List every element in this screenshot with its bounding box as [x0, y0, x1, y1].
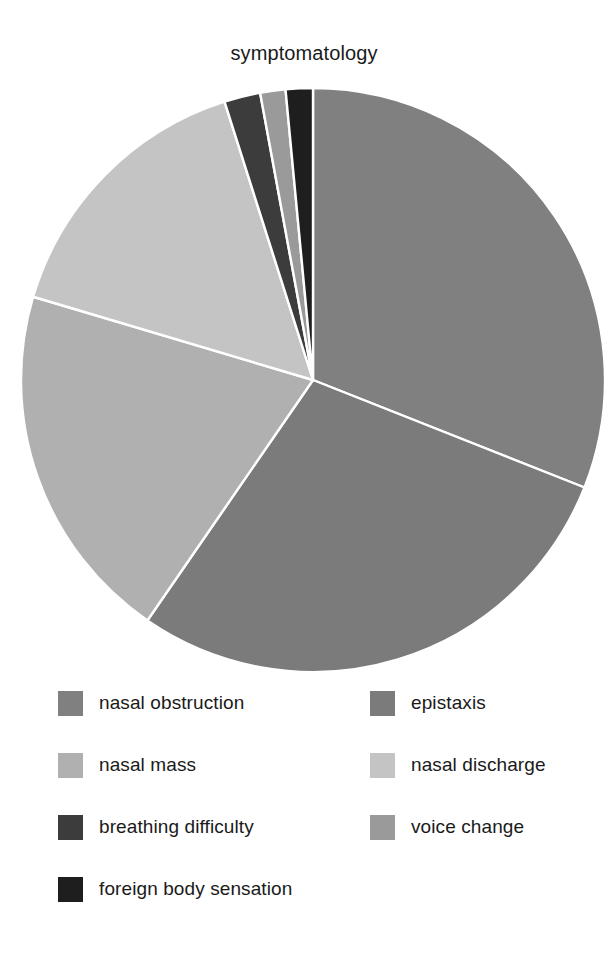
legend-item-label: voice change — [411, 816, 524, 838]
legend-item-foreign-body-sensation[interactable]: foreign body sensation — [58, 858, 292, 920]
legend-swatch-icon — [370, 691, 395, 716]
legend-item-label: breathing difficulty — [99, 816, 254, 838]
pie-chart-figure: symptomatology nasal obstruction epistax… — [0, 0, 608, 977]
chart-legend: nasal obstruction epistaxis nasal mass n… — [0, 672, 608, 920]
legend-item-epistaxis[interactable]: epistaxis — [370, 672, 486, 734]
legend-row: nasal obstruction epistaxis — [0, 672, 608, 734]
legend-item-nasal-discharge[interactable]: nasal discharge — [370, 734, 546, 796]
legend-swatch-icon — [58, 877, 83, 902]
legend-row: breathing difficulty voice change — [0, 796, 608, 858]
legend-item-label: foreign body sensation — [99, 878, 292, 900]
legend-item-label: nasal obstruction — [99, 692, 244, 714]
legend-swatch-icon — [370, 753, 395, 778]
legend-swatch-icon — [370, 815, 395, 840]
legend-item-nasal-obstruction[interactable]: nasal obstruction — [58, 672, 244, 734]
legend-row: foreign body sensation — [0, 858, 608, 920]
legend-item-label: epistaxis — [411, 692, 486, 714]
legend-item-voice-change[interactable]: voice change — [370, 796, 524, 858]
pie-chart-svg — [0, 78, 608, 678]
legend-swatch-icon — [58, 691, 83, 716]
legend-item-nasal-mass[interactable]: nasal mass — [58, 734, 196, 796]
pie-slice-group — [21, 88, 605, 672]
legend-item-label: nasal discharge — [411, 754, 546, 776]
legend-swatch-icon — [58, 815, 83, 840]
legend-item-breathing-difficulty[interactable]: breathing difficulty — [58, 796, 254, 858]
chart-title: symptomatology — [0, 42, 608, 65]
legend-row: nasal mass nasal discharge — [0, 734, 608, 796]
legend-item-label: nasal mass — [99, 754, 196, 776]
pie-chart-plot-area — [0, 78, 608, 678]
legend-swatch-icon — [58, 753, 83, 778]
